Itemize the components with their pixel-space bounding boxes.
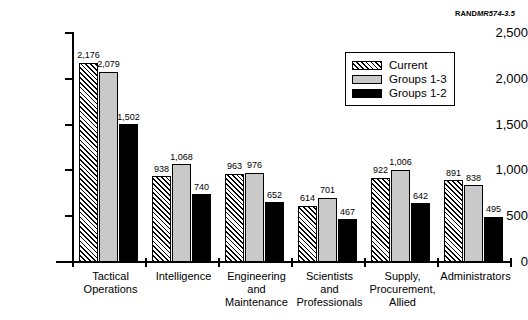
bar [245, 173, 265, 262]
bar [99, 72, 119, 262]
legend-swatch [352, 61, 382, 70]
category-label-line: Administrators [429, 270, 522, 283]
legend-item: Groups 1-2 [352, 86, 447, 100]
bar-value-label: 1,068 [166, 153, 198, 162]
legend-label: Current [389, 59, 427, 71]
bar [371, 178, 391, 262]
legend-item: Current [352, 58, 447, 72]
legend-label: Groups 1-3 [389, 73, 447, 85]
bar [152, 176, 172, 262]
bar-value-label: 467 [332, 208, 364, 217]
bar-value-label: 701 [312, 186, 344, 195]
y-axis-tick [65, 215, 74, 217]
legend-item: Groups 1-3 [352, 72, 447, 86]
category-label-line: Allied [356, 296, 449, 309]
bar-value-label: 1,502 [113, 113, 145, 122]
bar-value-label: 652 [259, 191, 291, 200]
y-axis-tick [65, 169, 74, 171]
y-axis-tick [65, 32, 74, 34]
legend-swatch [352, 75, 382, 84]
legend-swatch [352, 89, 382, 98]
bar-value-label: 1,006 [385, 158, 417, 167]
figure-id-prefix: RAND [455, 9, 477, 18]
bar [172, 164, 192, 262]
bar-group: 2,1762,0791,502 [74, 33, 147, 262]
y-axis-tick [65, 78, 74, 80]
bar-value-label: 642 [405, 192, 437, 201]
category-label-line: Procurement, [356, 283, 449, 296]
bar-group: 9381,068740 [147, 33, 220, 262]
bar [464, 185, 484, 262]
bar-group: 963976652 [220, 33, 293, 262]
legend: CurrentGroups 1-3Groups 1-2 [345, 52, 455, 106]
bar [391, 170, 411, 262]
bar [484, 217, 504, 262]
bar [192, 194, 212, 262]
y-axis-tick [65, 124, 74, 126]
figure-id-suffix: MR574-3.5 [477, 9, 515, 18]
bar-value-label: 838 [458, 174, 490, 183]
bar-value-label: 740 [186, 183, 218, 192]
bar [411, 203, 431, 262]
bar-value-label: 976 [239, 161, 271, 170]
bar [225, 174, 245, 262]
category-label: Administrators [429, 270, 522, 283]
bar [444, 180, 464, 262]
bar [265, 202, 285, 262]
figure-id-label: RANDMR574-3.5 [455, 9, 515, 18]
legend-label: Groups 1-2 [389, 87, 447, 99]
bar [338, 219, 358, 262]
bar [79, 63, 99, 262]
chart-figure: RANDMR574-3.5 05001,0001,5002,0002,500 2… [0, 0, 528, 320]
category-label-line: Operations [64, 283, 157, 296]
bar-value-label: 495 [478, 205, 510, 214]
bar [298, 206, 318, 262]
bar-value-label: 2,079 [93, 60, 125, 69]
bar [119, 124, 139, 262]
